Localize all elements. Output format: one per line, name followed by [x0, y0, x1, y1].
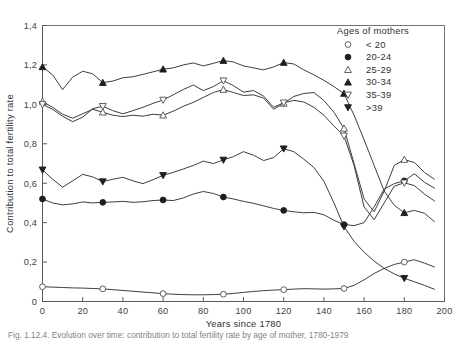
legend-entry-6[interactable]: >39: [345, 102, 383, 113]
marker-filled-triangle-up: [220, 57, 227, 63]
series-2: [40, 174, 435, 228]
marker-filled-circle: [281, 208, 287, 214]
legend-entry-label: >39: [366, 102, 383, 113]
y-tick-label: 1,0: [24, 100, 37, 110]
x-tick-label: 40: [118, 306, 129, 316]
legend-entry-label: 30-34: [366, 76, 391, 87]
x-tick-label: 0: [40, 306, 45, 316]
x-tick-label: 120: [276, 306, 292, 316]
x-tick-label: 100: [236, 306, 252, 316]
y-tick-label: 0,6: [24, 179, 37, 189]
y-tick-label: 0,2: [24, 257, 37, 267]
y-tick-label: 1,4: [24, 21, 37, 31]
legend-entry-2[interactable]: 20-24: [345, 51, 391, 62]
figure-container: 00,20,40,60,81,01,21,4020406080100120140…: [0, 0, 471, 340]
marker-open-triangle-up: [341, 125, 348, 131]
marker-open-circle: [341, 286, 347, 292]
marker-filled-triangle-up: [280, 59, 287, 65]
marker-open-triangle-up: [401, 156, 408, 162]
x-tick-label: 60: [158, 306, 169, 316]
fertility-line-chart: 00,20,40,60,81,01,21,4020406080100120140…: [0, 0, 471, 340]
marker-filled-circle: [100, 199, 106, 205]
marker-filled-triangle-down: [99, 179, 106, 185]
marker-open-circle: [100, 286, 106, 292]
marker-filled-triangle-up: [345, 79, 352, 85]
marker-filled-triangle-up: [39, 64, 46, 70]
y-tick-label: 1,2: [24, 60, 37, 70]
legend-entry-3[interactable]: 25-29: [345, 64, 392, 75]
marker-filled-circle: [221, 194, 227, 200]
marker-open-circle: [160, 291, 166, 297]
x-tick-label: 160: [356, 306, 372, 316]
legend-entry-label: 20-24: [366, 51, 391, 62]
legend-entry-1[interactable]: < 20: [345, 39, 386, 50]
chart-legend: Ages of mothers< 2020-2425-2930-3435-39>…: [337, 25, 409, 113]
marker-open-circle: [345, 42, 351, 48]
y-tick-label: 0,4: [24, 218, 37, 228]
legend-title: Ages of mothers: [337, 25, 409, 36]
y-axis-title: Contribution to total fertility rate: [4, 94, 15, 233]
marker-open-triangle-down: [220, 78, 227, 84]
marker-filled-circle: [40, 196, 46, 202]
figure-caption: Fig. 1.12.4. Evolution over time: contri…: [8, 330, 463, 340]
x-axis-title: Years since 1780: [206, 318, 282, 329]
marker-open-triangle-up: [345, 66, 352, 72]
marker-filled-triangle-down: [220, 157, 227, 163]
y-tick-label: 0: [32, 297, 37, 307]
legend-entry-label: 35-39: [366, 89, 391, 100]
legend-entry-label: < 20: [366, 39, 386, 50]
x-tick-label: 140: [316, 306, 332, 316]
legend-entry-5[interactable]: 35-39: [345, 89, 392, 100]
marker-open-triangle-up: [220, 86, 227, 92]
marker-open-circle: [401, 259, 407, 265]
x-tick-label: 80: [198, 306, 209, 316]
x-tick-label: 200: [437, 306, 453, 316]
marker-filled-triangle-down: [401, 275, 408, 281]
x-tick-label: 180: [396, 306, 412, 316]
marker-open-circle: [40, 284, 46, 290]
legend-entry-label: 25-29: [366, 64, 391, 75]
marker-filled-circle: [345, 54, 351, 60]
x-tick-label: 20: [77, 306, 88, 316]
series-1: [40, 259, 435, 297]
marker-filled-triangle-down: [160, 173, 167, 179]
y-tick-label: 0,8: [24, 139, 37, 149]
marker-open-circle: [281, 287, 287, 293]
legend-entry-4[interactable]: 30-34: [345, 76, 392, 87]
marker-open-circle: [221, 291, 227, 297]
marker-filled-circle: [160, 197, 166, 203]
